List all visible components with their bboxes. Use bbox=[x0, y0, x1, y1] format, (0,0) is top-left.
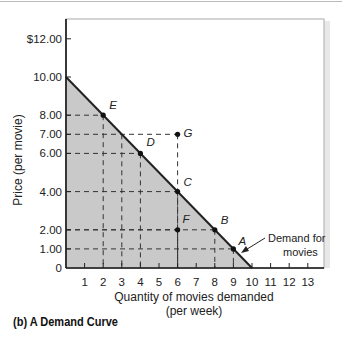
point-G bbox=[175, 132, 180, 137]
point-label-G: G bbox=[184, 127, 193, 139]
x-tick-label: 11 bbox=[265, 276, 277, 288]
point-E bbox=[101, 113, 106, 118]
x-tick-label: 2 bbox=[100, 276, 106, 288]
y-axis-label: Price (per movie) bbox=[11, 114, 25, 205]
y-tick-label: 1.00 bbox=[40, 243, 62, 255]
point-label-C: C bbox=[184, 176, 193, 188]
point-D bbox=[138, 151, 143, 156]
y-tick-label: $12.00 bbox=[27, 33, 62, 45]
y-tick-label: 10.00 bbox=[33, 71, 62, 83]
x-tick-label: 7 bbox=[193, 276, 199, 288]
y-tick-label: 8.00 bbox=[40, 109, 62, 121]
x-tick-label: 3 bbox=[119, 276, 125, 288]
annotation-demand-label-2: movies bbox=[283, 246, 318, 258]
point-label-D: D bbox=[146, 136, 154, 148]
x-tick-label: 10 bbox=[246, 276, 259, 288]
point-B bbox=[212, 227, 217, 232]
x-axis-label: Quantity of movies demanded bbox=[114, 290, 273, 304]
y-tick-label: 0 bbox=[56, 262, 62, 274]
point-label-A: A bbox=[237, 235, 246, 247]
x-tick-label: 4 bbox=[137, 276, 144, 288]
figure-caption: (b) A Demand Curve bbox=[13, 315, 118, 329]
x-tick-label: 13 bbox=[301, 276, 314, 288]
x-tick-label: 8 bbox=[212, 276, 218, 288]
point-F bbox=[175, 227, 180, 232]
point-label-E: E bbox=[109, 99, 117, 111]
y-tick-label: 2.00 bbox=[40, 224, 62, 236]
annotation-demand-label: Demand for bbox=[268, 232, 326, 244]
x-tick-label: 5 bbox=[156, 276, 162, 288]
x-axis-sublabel: (per week) bbox=[166, 304, 223, 318]
y-tick-label: 7.00 bbox=[40, 128, 62, 140]
point-C bbox=[175, 189, 180, 194]
y-tick-label: 6.00 bbox=[40, 147, 62, 159]
y-tick-label: 4.00 bbox=[40, 186, 62, 198]
point-label-F: F bbox=[183, 213, 191, 225]
x-tick-label: 6 bbox=[174, 276, 180, 288]
x-tick-label: 9 bbox=[230, 276, 236, 288]
demand-chart: 12345678910111213$12.0010.008.007.006.00… bbox=[0, 0, 348, 338]
x-tick-label: 12 bbox=[283, 276, 296, 288]
x-tick-label: 1 bbox=[81, 276, 87, 288]
point-A bbox=[231, 246, 236, 251]
point-label-B: B bbox=[221, 214, 229, 226]
